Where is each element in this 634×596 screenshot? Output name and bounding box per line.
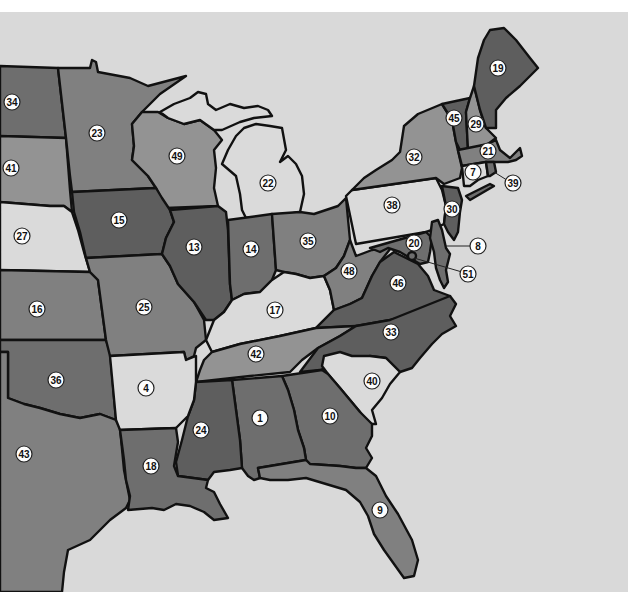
- state-badge-46[interactable]: 46: [390, 275, 406, 291]
- badge-label: 51: [462, 269, 474, 280]
- badge-label: 23: [91, 128, 103, 139]
- badge-label: 43: [18, 449, 30, 460]
- state-badge-25[interactable]: 25: [136, 299, 152, 315]
- badge-label: 18: [145, 461, 157, 472]
- state-badge-22[interactable]: 22: [260, 175, 276, 191]
- state-badge-15[interactable]: 15: [111, 212, 127, 228]
- badge-label: 27: [16, 231, 28, 242]
- state-badge-29[interactable]: 29: [468, 116, 484, 132]
- badge-label: 17: [269, 305, 281, 316]
- state-badge-36[interactable]: 36: [48, 372, 64, 388]
- state-22[interactable]: [222, 124, 304, 218]
- badge-label: 41: [5, 163, 17, 174]
- badge-label: 21: [482, 146, 494, 157]
- state-badge-4[interactable]: 4: [138, 380, 154, 396]
- state-badge-49[interactable]: 49: [169, 148, 185, 164]
- badge-label: 33: [385, 327, 397, 338]
- badge-label: 20: [408, 238, 420, 249]
- state-badge-41[interactable]: 41: [3, 160, 19, 176]
- state-badge-16[interactable]: 16: [29, 301, 45, 317]
- badge-label: 1: [257, 413, 263, 424]
- state-badge-10[interactable]: 10: [322, 408, 338, 424]
- state-51-marker[interactable]: [408, 252, 416, 260]
- badge-label: 29: [470, 119, 482, 130]
- badge-label: 48: [343, 266, 355, 277]
- state-badge-19[interactable]: 19: [490, 60, 506, 76]
- state-badge-42[interactable]: 42: [248, 346, 264, 362]
- badge-label: 42: [250, 349, 262, 360]
- state-badge-9[interactable]: 9: [372, 502, 388, 518]
- badge-label: 45: [448, 113, 460, 124]
- state-badge-43[interactable]: 43: [16, 446, 32, 462]
- state-badge-33[interactable]: 33: [383, 324, 399, 340]
- map-frame: 3423414922271513143516251742364241104318…: [0, 12, 628, 592]
- state-badge-20[interactable]: 20: [406, 235, 422, 251]
- state-badge-18[interactable]: 18: [143, 458, 159, 474]
- state-badge-17[interactable]: 17: [267, 302, 283, 318]
- state-9[interactable]: [258, 460, 418, 578]
- state-badge-27[interactable]: 27: [14, 228, 30, 244]
- badge-label: 9: [377, 505, 383, 516]
- badge-label: 46: [392, 278, 404, 289]
- badge-label: 15: [113, 215, 125, 226]
- state-badge-13[interactable]: 13: [186, 239, 202, 255]
- state-badge-40[interactable]: 40: [364, 373, 380, 389]
- state-badge-32[interactable]: 32: [406, 149, 422, 165]
- badge-label: 7: [470, 167, 476, 178]
- state-badge-24[interactable]: 24: [193, 422, 209, 438]
- state-badge-30[interactable]: 30: [444, 201, 460, 217]
- state-badge-23[interactable]: 23: [89, 125, 105, 141]
- badge-label: 35: [302, 236, 314, 247]
- us-states-map: 3423414922271513143516251742364241104318…: [0, 12, 628, 592]
- state-19[interactable]: [474, 28, 538, 128]
- badge-label: 14: [245, 244, 257, 255]
- badge-label: 30: [446, 204, 458, 215]
- badge-label: 38: [386, 200, 398, 211]
- state-badge-1[interactable]: 1: [252, 410, 268, 426]
- badge-label: 19: [492, 63, 504, 74]
- badge-label: 49: [171, 151, 183, 162]
- badge-label: 36: [50, 375, 62, 386]
- state-badge-34[interactable]: 34: [4, 94, 20, 110]
- state-badge-48[interactable]: 48: [341, 263, 357, 279]
- state-39[interactable]: [486, 162, 496, 176]
- badge-label: 32: [408, 152, 420, 163]
- state-badge-21[interactable]: 21: [480, 143, 496, 159]
- badge-label: 8: [475, 241, 481, 252]
- badge-label: 10: [324, 411, 336, 422]
- state-badge-51[interactable]: 51: [460, 266, 476, 282]
- badge-label: 25: [138, 302, 150, 313]
- badge-label: 34: [6, 97, 18, 108]
- badge-label: 4: [143, 383, 149, 394]
- state-badge-38[interactable]: 38: [384, 197, 400, 213]
- state-badge-14[interactable]: 14: [243, 241, 259, 257]
- state-badge-35[interactable]: 35: [300, 233, 316, 249]
- badge-label: 39: [507, 178, 519, 189]
- state-badge-8[interactable]: 8: [470, 238, 486, 254]
- state-badge-45[interactable]: 45: [446, 110, 462, 126]
- badge-label: 22: [262, 178, 274, 189]
- badge-label: 13: [188, 242, 200, 253]
- state-badge-7[interactable]: 7: [465, 164, 481, 180]
- badge-label: 24: [195, 425, 207, 436]
- state-16[interactable]: [0, 270, 106, 340]
- badge-label: 16: [31, 304, 43, 315]
- state-badge-39[interactable]: 39: [505, 175, 521, 191]
- badge-label: 40: [366, 376, 378, 387]
